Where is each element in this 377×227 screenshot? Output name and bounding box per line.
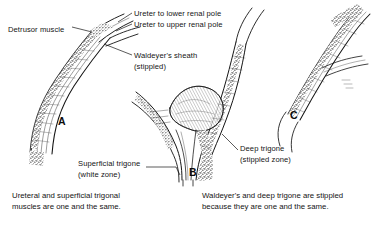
- leader-waldeyers-sheath: [104, 44, 132, 55]
- label-waldeyers-sheath: Waldeyer's sheath: [134, 50, 197, 61]
- leader-deep-trigone: [222, 134, 238, 150]
- panel-letter-b: B: [189, 166, 197, 178]
- leader-detrusor-muscle: [72, 27, 92, 32]
- panel-c-illustration: [278, 4, 370, 152]
- panel-letter-c: C: [290, 109, 298, 121]
- caption-left-line-2: muscles are one and the same.: [12, 201, 121, 212]
- label-ureter-upper-renal-pole: Ureter to upper renal pole: [134, 19, 223, 30]
- caption-right-line-1: Waldeyer's and deep trigone are stippled: [202, 190, 343, 201]
- label-deep-trigone-qualifier: (stippled zone): [240, 154, 291, 165]
- caption-left-line-1: Ureteral and superficial trigonal: [12, 190, 120, 201]
- label-waldeyers-sheath-qualifier: (stippled): [134, 61, 166, 72]
- label-ureter-lower-renal-pole: Ureter to lower renal pole: [134, 8, 221, 19]
- label-detrusor-muscle: Detrusor muscle: [8, 24, 64, 35]
- leader-ureter-lower-pole: [118, 13, 132, 22]
- panel-a-illustration: [29, 13, 140, 166]
- label-deep-trigone: Deep trigone: [240, 143, 284, 154]
- label-superficial-trigone: Superficial trigone: [78, 158, 140, 169]
- panel-letter-a: A: [58, 115, 66, 127]
- caption-right-line-2: because they are one and the same.: [202, 201, 329, 212]
- label-superficial-trigone-qualifier: (white zone): [78, 169, 120, 180]
- leader-superficial-trigone: [146, 167, 180, 175]
- anatomical-figure: Detrusor muscle Ureter to lower renal po…: [0, 0, 377, 227]
